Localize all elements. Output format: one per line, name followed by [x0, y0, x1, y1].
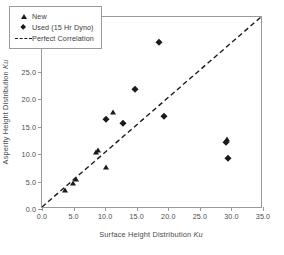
- x-tick: [137, 207, 138, 211]
- x-tick: [263, 207, 264, 211]
- y-tick: [38, 72, 42, 73]
- legend-item-perfect-correlation: Perfect Correlation: [15, 33, 94, 44]
- x-tick: [231, 207, 232, 211]
- x-tick-label: 15.0: [130, 212, 144, 221]
- y-tick: [38, 154, 42, 155]
- y-tick: [38, 99, 42, 100]
- y-axis-title: Asperity Height Distribution Ku: [1, 60, 10, 165]
- legend-label-new: New: [32, 12, 47, 21]
- x-axis-title-text: Surface Height Distribution: [99, 230, 191, 239]
- x-tick: [200, 207, 201, 211]
- legend-label-used: Used (15 Hr Dyno): [32, 23, 94, 32]
- scatter-chart-figure: Asperity Height Distribution Ku Surface …: [0, 0, 284, 255]
- y-axis-title-symbol: Ku: [1, 60, 10, 69]
- data-point-new: [95, 148, 101, 153]
- dashed-line-icon: [15, 38, 32, 39]
- x-tick-label: 20.0: [161, 212, 175, 221]
- y-tick-label: 20.0: [22, 95, 36, 104]
- x-tick-label: 25.0: [193, 212, 207, 221]
- legend-item-new: New: [15, 11, 94, 22]
- y-tick: [38, 182, 42, 183]
- x-tick: [168, 207, 169, 211]
- x-tick: [105, 207, 106, 211]
- triangle-marker-icon: [15, 14, 32, 19]
- x-axis-title: Surface Height Distribution Ku: [99, 230, 203, 239]
- legend-item-used: Used (15 Hr Dyno): [15, 22, 94, 33]
- x-tick-label: 10.0: [98, 212, 112, 221]
- x-tick-label: 30.0: [224, 212, 238, 221]
- data-point-new: [110, 110, 116, 115]
- y-tick: [38, 127, 42, 128]
- data-point-new: [62, 187, 68, 192]
- diamond-marker-icon: [15, 25, 32, 29]
- y-tick-label: 25.0: [22, 67, 36, 76]
- x-tick: [42, 207, 43, 211]
- x-tick-label: 35.0: [256, 212, 270, 221]
- x-tick: [74, 207, 75, 211]
- x-tick-label: 0.0: [37, 212, 47, 221]
- y-tick-label: 15.0: [22, 122, 36, 131]
- legend-label-perfect-correlation: Perfect Correlation: [32, 34, 94, 43]
- x-tick-label: 5.0: [68, 212, 78, 221]
- data-point-new: [103, 165, 109, 170]
- data-point-new: [73, 177, 79, 182]
- chart-legend: New Used (15 Hr Dyno) Perfect Correlatio…: [9, 6, 102, 49]
- y-tick-label: 10.0: [22, 150, 36, 159]
- y-tick-label: 5.0: [26, 177, 36, 186]
- y-axis-title-text: Asperity Height Distribution: [1, 71, 10, 164]
- x-axis-title-symbol: Ku: [193, 230, 202, 239]
- y-tick-label: 0.0: [26, 205, 36, 214]
